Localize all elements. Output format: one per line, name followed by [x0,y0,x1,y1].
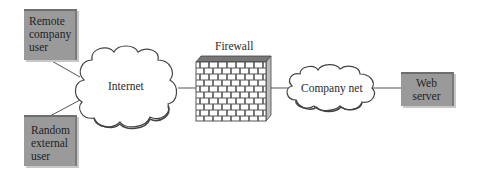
web-server-label: Web server [401,77,452,103]
random-external-user-node: Random external user [24,115,77,166]
firewall-icon [196,56,271,121]
company-net-label: Company net [301,82,363,94]
web-server-node: Web server [401,72,454,106]
firewall-label: Firewall [215,40,253,52]
internet-label: Internet [108,80,144,92]
edge-remote-user-internet [50,60,80,77]
random-external-user-label: Random external user [31,124,70,163]
remote-company-user-label: Remote company user [29,15,71,54]
remote-company-user-node: Remote company user [24,9,77,60]
edge-random-user-internet [50,100,80,116]
